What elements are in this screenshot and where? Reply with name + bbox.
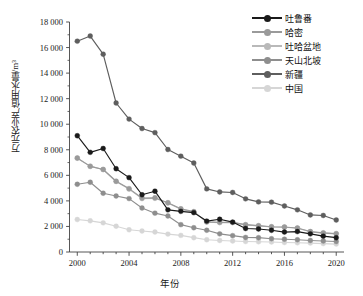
data-point (295, 207, 300, 212)
data-point (282, 225, 287, 230)
x-axis-tick-label: 2020 (328, 258, 345, 268)
data-point (204, 186, 209, 191)
data-point (321, 213, 326, 218)
y-axis-tick-label: 2 000 (20, 221, 63, 231)
data-point (217, 189, 222, 194)
legend-label: 新疆 (285, 68, 303, 81)
data-point (308, 238, 313, 243)
y-axis-tick-label: 16 000 (20, 43, 63, 53)
data-point (101, 52, 106, 57)
x-axis-tick-label: 2008 (172, 258, 189, 268)
data-point (153, 195, 158, 200)
data-point (127, 196, 132, 201)
data-point (140, 192, 145, 197)
data-point (191, 235, 196, 240)
x-axis-title: 年份 (160, 276, 180, 290)
legend-marker-icon (252, 26, 282, 38)
y-axis-tick-label: 12 000 (20, 94, 63, 104)
data-point (282, 237, 287, 242)
data-point (243, 196, 248, 201)
data-point (114, 179, 119, 184)
data-point (295, 237, 300, 242)
legend-item-0[interactable]: 吐鲁番 (252, 11, 360, 25)
data-point (321, 234, 326, 239)
data-point (334, 218, 339, 223)
data-point (191, 225, 196, 230)
y-axis-tick-label: 0 (20, 247, 63, 257)
y-axis-tick-label: 10 000 (20, 119, 63, 129)
chart-legend: 吐鲁番哈密吐哈盆地天山北坡新疆中国 (252, 11, 360, 95)
legend-item-2[interactable]: 吐哈盆地 (252, 39, 360, 53)
data-point (230, 220, 235, 225)
data-point (140, 206, 145, 211)
y-axis-tick-label: 18 000 (20, 17, 63, 27)
y-axis-tick-label: 6 000 (20, 170, 63, 180)
data-point (269, 228, 274, 233)
legend-marker-icon (252, 68, 282, 80)
data-point (321, 239, 326, 244)
data-point (256, 235, 261, 240)
data-point (256, 227, 261, 232)
data-point (217, 217, 222, 222)
data-point (75, 217, 80, 222)
legend-label: 中国 (285, 82, 303, 95)
data-point (88, 34, 93, 39)
data-point (308, 231, 313, 236)
legend-label: 吐哈盆地 (285, 40, 321, 53)
data-point (88, 180, 93, 185)
legend-item-5[interactable]: 中国 (252, 81, 360, 95)
data-point (101, 146, 106, 151)
data-point (204, 228, 209, 233)
y-axis-tick-label: 8 000 (20, 145, 63, 155)
data-point (230, 190, 235, 195)
data-point (88, 218, 93, 223)
data-point (88, 164, 93, 169)
data-point (114, 166, 119, 171)
x-axis-tick-label: 2016 (276, 258, 293, 268)
data-point (282, 204, 287, 209)
data-point (165, 207, 170, 212)
legend-marker-icon (252, 82, 282, 94)
data-point (153, 189, 158, 194)
data-point (295, 229, 300, 234)
data-point (204, 237, 209, 242)
x-axis-tick-label: 2004 (121, 258, 138, 268)
y-axis-tick-label: 4 000 (20, 196, 63, 206)
legend-item-3[interactable]: 天山北坡 (252, 53, 360, 67)
data-point (269, 236, 274, 241)
data-point (127, 186, 132, 191)
legend-label: 天山北坡 (285, 54, 321, 67)
data-point (191, 210, 196, 215)
data-point (127, 175, 132, 180)
data-point (178, 154, 183, 159)
data-point (101, 191, 106, 196)
data-point (101, 167, 106, 172)
data-point (178, 233, 183, 238)
data-point (165, 147, 170, 152)
data-point (230, 233, 235, 238)
data-point (75, 156, 80, 161)
data-point (178, 222, 183, 227)
legend-item-4[interactable]: 新疆 (252, 67, 360, 81)
data-point (140, 229, 145, 234)
data-point (165, 200, 170, 205)
data-point (114, 224, 119, 229)
legend-marker-icon (252, 54, 282, 66)
data-point (308, 212, 313, 217)
data-point (178, 209, 183, 214)
data-point (114, 194, 119, 199)
data-point (127, 117, 132, 122)
x-axis-tick-label: 2012 (224, 258, 241, 268)
data-point (269, 200, 274, 205)
data-point (153, 211, 158, 216)
legend-item-1[interactable]: 哈密 (252, 25, 360, 39)
data-point (191, 161, 196, 166)
data-point (165, 232, 170, 237)
data-point (204, 219, 209, 224)
data-point (114, 101, 119, 106)
data-point (217, 231, 222, 236)
chart-container: 万元农业产值用水量/m³ 年份 02 0004 0006 0008 00010 … (0, 0, 363, 296)
x-axis-tick-label: 2000 (69, 258, 86, 268)
data-point (282, 230, 287, 235)
legend-label: 哈密 (285, 26, 303, 39)
